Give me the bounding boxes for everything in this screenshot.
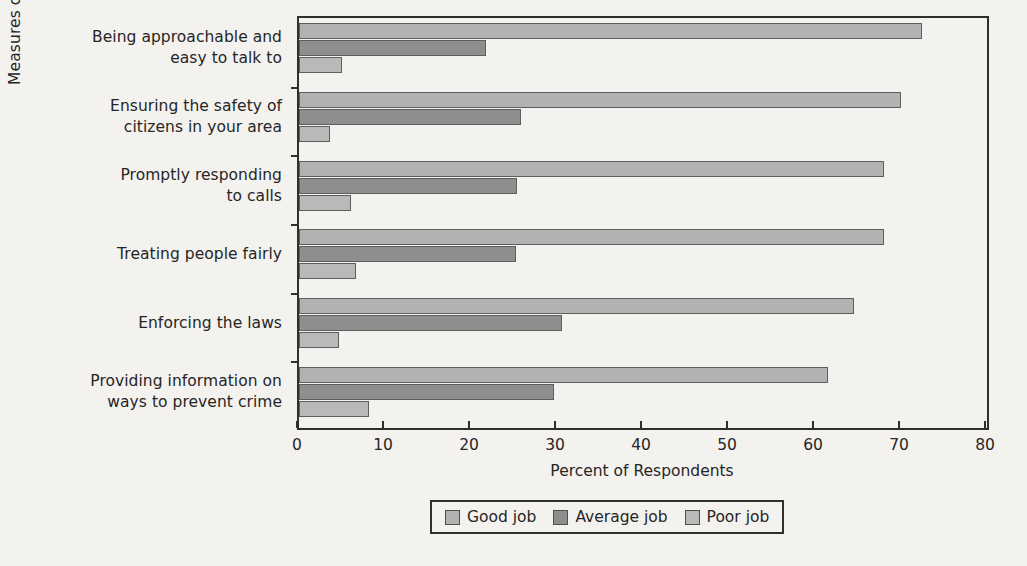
bar-average [299, 315, 562, 331]
x-axis-tick-label: 60 [793, 436, 833, 454]
bar-good [299, 161, 884, 177]
legend-item[interactable]: Poor job [685, 508, 770, 526]
x-axis-tick [554, 421, 556, 428]
legend-label: Average job [575, 508, 667, 526]
bar-group [299, 361, 987, 430]
bar-good [299, 92, 901, 108]
x-axis-tick [726, 421, 728, 428]
category-label-line: Enforcing the laws [32, 313, 282, 334]
category-label: Being approachable andeasy to talk to [32, 27, 282, 69]
x-axis-tick [812, 421, 814, 428]
category-axis-labels: Being approachable andeasy to talk toEns… [40, 16, 290, 428]
bar-poor [299, 195, 351, 211]
x-axis-tick-label: 30 [535, 436, 575, 454]
bar-good [299, 23, 922, 39]
bar-good [299, 229, 884, 245]
category-label-line: Promptly responding [32, 165, 282, 186]
bar-group [299, 87, 987, 156]
category-label: Ensuring the safety ofcitizens in your a… [32, 96, 282, 138]
category-label-line: citizens in your area [32, 117, 282, 138]
legend-label: Good job [467, 508, 536, 526]
chart-figure: Measures of Police Performance Being app… [0, 0, 1027, 566]
legend-swatch-icon [553, 510, 568, 525]
x-axis-tick [640, 421, 642, 428]
x-axis-tick-label: 50 [707, 436, 747, 454]
bar-poor [299, 57, 342, 73]
bar-average [299, 246, 516, 262]
x-axis-tick [984, 421, 986, 428]
bar-poor [299, 332, 339, 348]
y-axis-tick [291, 87, 299, 89]
legend-swatch-icon [445, 510, 460, 525]
x-axis: 01020304050607080 [297, 428, 987, 430]
bar-good [299, 298, 854, 314]
bar-good [299, 367, 828, 383]
bar-group [299, 224, 987, 293]
y-axis-tick [291, 293, 299, 295]
legend-item[interactable]: Good job [445, 508, 536, 526]
bar-group [299, 155, 987, 224]
bar-group [299, 293, 987, 362]
bar-average [299, 384, 554, 400]
category-label-line: Being approachable and [32, 27, 282, 48]
x-axis-tick-label: 10 [363, 436, 403, 454]
y-axis-tick [291, 361, 299, 363]
bar-average [299, 178, 517, 194]
x-axis-tick-label: 70 [879, 436, 919, 454]
x-axis-tick-label: 80 [965, 436, 1005, 454]
bar-poor [299, 126, 330, 142]
y-axis-tick [291, 224, 299, 226]
x-axis-tick [296, 421, 298, 428]
x-axis-tick [898, 421, 900, 428]
category-label-line: Treating people fairly [32, 244, 282, 265]
y-axis-title: Measures of Police Performance [6, 0, 28, 110]
x-axis-tick [382, 421, 384, 428]
category-label: Promptly respondingto calls [32, 165, 282, 207]
category-label-line: easy to talk to [32, 48, 282, 69]
x-axis-tick-label: 20 [449, 436, 489, 454]
category-label: Providing information onways to prevent … [32, 371, 282, 413]
y-axis-tick [291, 155, 299, 157]
x-axis-tick [468, 421, 470, 428]
legend-label: Poor job [707, 508, 770, 526]
category-label-line: ways to prevent crime [32, 392, 282, 413]
bar-poor [299, 263, 356, 279]
chart-legend: Good jobAverage jobPoor job [430, 500, 784, 534]
bar-average [299, 40, 486, 56]
x-axis-tick-label: 40 [621, 436, 661, 454]
legend-swatch-icon [685, 510, 700, 525]
category-label-line: Ensuring the safety of [32, 96, 282, 117]
category-label: Enforcing the laws [32, 313, 282, 334]
x-axis-tick-label: 0 [277, 436, 317, 454]
plot-area [297, 16, 989, 430]
bar-group [299, 18, 987, 87]
bar-average [299, 109, 521, 125]
category-label-line: Providing information on [32, 371, 282, 392]
category-label-line: to calls [32, 186, 282, 207]
category-label: Treating people fairly [32, 244, 282, 265]
x-axis-title: Percent of Respondents [297, 462, 987, 480]
legend-item[interactable]: Average job [553, 508, 667, 526]
bar-poor [299, 401, 369, 417]
